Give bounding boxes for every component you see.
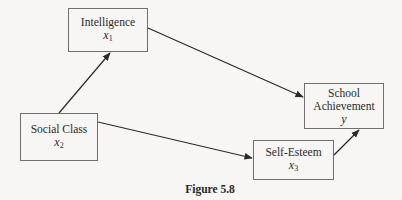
arrow-intelligence-to-school xyxy=(148,28,303,97)
node-school-label-line1: School xyxy=(328,87,360,100)
node-intelligence: Intelligence x1 xyxy=(68,8,148,52)
node-social-class: Social Class x2 xyxy=(20,113,98,161)
arrow-social-to-intelligence xyxy=(59,53,110,113)
node-self-esteem: Self-Esteem x3 xyxy=(253,140,334,180)
arrow-selfesteem-to-school xyxy=(334,130,359,155)
arrow-social-to-selfesteem xyxy=(98,122,252,158)
node-self-esteem-var: x3 xyxy=(289,159,298,175)
node-school-label-line2: Achievement xyxy=(313,100,374,113)
node-school-var: y xyxy=(341,113,346,126)
node-intelligence-var: x1 xyxy=(103,29,112,45)
node-school-achievement: School Achievement y xyxy=(304,83,384,129)
figure-caption: Figure 5.8 xyxy=(150,183,270,195)
node-social-class-var: x2 xyxy=(54,136,63,152)
